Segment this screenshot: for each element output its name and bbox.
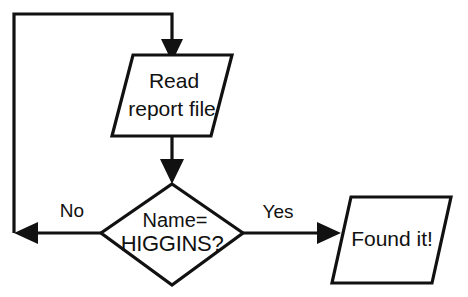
node-found-it[interactable]: Found it! <box>332 197 451 283</box>
edge-label-no: No <box>60 200 84 221</box>
arrow-head-no-branch <box>14 222 38 244</box>
name-check-label-line2: HIGGINS? <box>121 231 224 256</box>
arrow-head-yes-branch <box>317 222 341 244</box>
read-report-file-label-line1: Read <box>149 69 199 92</box>
read-report-file-label-line2: report file <box>128 97 216 120</box>
node-read-report-file[interactable]: Read report file <box>112 55 232 136</box>
edge-no-branch: No <box>14 200 101 244</box>
edge-yes-branch: Yes <box>243 201 341 244</box>
arrow-head-into-decision <box>160 159 184 184</box>
flowchart-canvas: Read report file Name= HIGGINS? No Yes <box>0 0 468 297</box>
name-check-label-line1: Name= <box>142 209 207 231</box>
read-report-file-parallelogram <box>112 55 232 136</box>
edge-label-yes: Yes <box>263 201 294 222</box>
found-it-label: Found it! <box>351 227 433 250</box>
node-name-check-decision[interactable]: Name= HIGGINS? <box>101 184 243 285</box>
edge-read-to-decision <box>160 136 184 184</box>
flowchart-svg: Read report file Name= HIGGINS? No Yes <box>0 0 468 297</box>
